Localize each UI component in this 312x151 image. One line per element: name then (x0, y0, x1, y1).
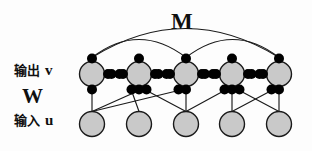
network-diagram: 输出v W 输入u M (0, 0, 312, 151)
dot-bottom-v1-0 (87, 85, 97, 95)
output-row-label-cjk: 输出 (14, 63, 40, 78)
input-row-label-cjk: 输入 (14, 113, 40, 128)
dot-bottom-v4-2 (235, 85, 245, 95)
input-row-label: 输入u (14, 112, 53, 128)
output-node-v1 (80, 62, 105, 87)
dot-mid-right-2 (208, 69, 218, 79)
input-node-u4 (220, 112, 245, 137)
output-node-v3 (174, 62, 199, 87)
dot-mid-right-1 (162, 69, 172, 79)
dot-bottom-v3-1 (174, 85, 184, 95)
dot-top-v4 (227, 54, 237, 64)
input-row-label-symbol: u (45, 112, 53, 128)
dot-top-v5 (274, 54, 284, 64)
input-node-u3 (174, 112, 199, 137)
dot-bottom-v2-2 (142, 85, 152, 95)
input-node-u2 (127, 112, 152, 137)
output-row-label-symbol: v (45, 62, 53, 78)
input-node-u1 (80, 112, 105, 137)
dot-mid-right-3 (255, 69, 265, 79)
input-node-u5 (267, 112, 292, 137)
weight-matrix-label: W (22, 86, 43, 107)
output-row-label: 输出v (14, 62, 53, 78)
dot-top-v2 (134, 54, 144, 64)
dot-bottom-v4-1 (220, 85, 230, 95)
dot-bottom-v5-1 (267, 85, 277, 95)
edge-u3-v4 (186, 91, 225, 112)
dot-top-v1 (87, 54, 97, 64)
output-node-v5 (267, 62, 292, 87)
dot-bottom-v2-1 (127, 85, 137, 95)
lateral-matrix-label: M (171, 10, 193, 33)
output-node-v2 (127, 62, 152, 87)
dot-top-v3 (181, 54, 191, 64)
input-node-group (80, 112, 292, 137)
dot-mid-right-0 (115, 69, 125, 79)
output-node-v4 (220, 62, 245, 87)
